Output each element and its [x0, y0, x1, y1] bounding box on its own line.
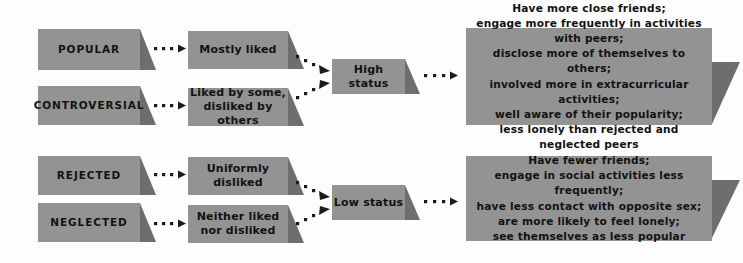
shadow-mostly-liked [288, 31, 304, 79]
description-box-neither-liked[interactable]: Neither liked nor disliked [188, 205, 288, 243]
status-flow-diagram: POPULAR CONTROVERSIAL REJECTED NEGLECTED… [0, 0, 743, 263]
shadow-popular [140, 29, 156, 80]
shadow-low-status [405, 185, 420, 229]
shadow-neglected [140, 203, 156, 252]
arrow-popular-to-mostly-liked [154, 44, 188, 54]
outcome-box-low-status[interactable]: Have fewer friends; engage in social act… [466, 156, 712, 241]
description-label-uniformly-disliked: Uniformly disliked [188, 162, 288, 190]
description-label-mostly-liked: Mostly liked [199, 43, 276, 57]
shadow-rejected [140, 156, 156, 205]
arrow-neither-liked-to-low-status [296, 202, 336, 228]
arrow-controversial-to-liked-by-some [154, 101, 188, 111]
arrow-uniformly-disliked-to-low-status [296, 181, 336, 207]
arrow-high-status-to-outcomes [424, 71, 462, 81]
description-label-neither-liked: Neither liked nor disliked [197, 210, 280, 238]
shadow-high-status-outcomes [712, 62, 740, 134]
shadow-low-status-outcomes [712, 180, 740, 248]
shadow-neither-liked [288, 205, 304, 253]
status-box-high-status[interactable]: High status [332, 59, 405, 94]
status-label-low-status: Low status [334, 196, 403, 210]
category-box-rejected[interactable]: REJECTED [38, 156, 140, 195]
shadow-liked-by-some [288, 88, 304, 136]
arrow-mostly-liked-to-high-status [296, 55, 336, 81]
arrow-neglected-to-neither-liked [154, 219, 188, 229]
arrow-liked-by-some-to-high-status [296, 76, 336, 102]
outcome-label-high-status: Have more close friends; engage more fre… [474, 1, 704, 151]
category-box-controversial[interactable]: CONTROVERSIAL [38, 86, 140, 125]
outcome-label-low-status: Have fewer friends; engage in social act… [474, 153, 704, 243]
status-box-low-status[interactable]: Low status [332, 185, 405, 220]
description-box-liked-by-some[interactable]: Liked by some, disliked by others [188, 88, 288, 126]
description-box-mostly-liked[interactable]: Mostly liked [188, 31, 288, 69]
category-label-neglected: NEGLECTED [50, 216, 127, 229]
category-box-neglected[interactable]: NEGLECTED [38, 203, 140, 242]
arrow-rejected-to-uniformly-disliked [154, 170, 188, 180]
category-label-controversial: CONTROVERSIAL [34, 99, 145, 112]
outcome-box-high-status[interactable]: Have more close friends; engage more fre… [466, 28, 712, 125]
arrow-low-status-to-outcomes [424, 197, 462, 207]
shadow-high-status [405, 59, 420, 103]
category-box-popular[interactable]: POPULAR [38, 29, 140, 70]
category-label-popular: POPULAR [58, 43, 120, 56]
shadow-uniformly-disliked [288, 157, 304, 205]
category-label-rejected: REJECTED [57, 169, 121, 182]
description-box-uniformly-disliked[interactable]: Uniformly disliked [188, 157, 288, 195]
status-label-high-status: High status [332, 63, 405, 91]
description-label-liked-by-some: Liked by some, disliked by others [188, 86, 288, 127]
